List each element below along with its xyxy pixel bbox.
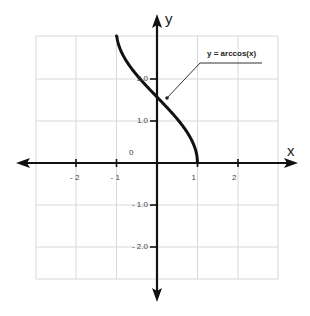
x-axis-label: x: [287, 142, 295, 159]
curve-annotation-label: y = arccos(x): [207, 49, 256, 58]
x-tick-label: 1: [192, 173, 196, 182]
chart-canvas: [0, 0, 310, 316]
y-tick-label: 2.0: [137, 74, 148, 83]
x-tick-label: - 1: [111, 173, 120, 182]
y-tick-label: 1.0: [137, 116, 148, 125]
y-axis-label: y: [165, 10, 173, 27]
annotation-leader-line: [165, 63, 262, 100]
y-tick-label: - 2.0: [132, 242, 148, 251]
origin-label: 0: [129, 148, 133, 157]
x-tick-label: 2: [232, 173, 236, 182]
y-tick-label: - 1.0: [132, 200, 148, 209]
x-tick-label: - 2: [70, 173, 79, 182]
